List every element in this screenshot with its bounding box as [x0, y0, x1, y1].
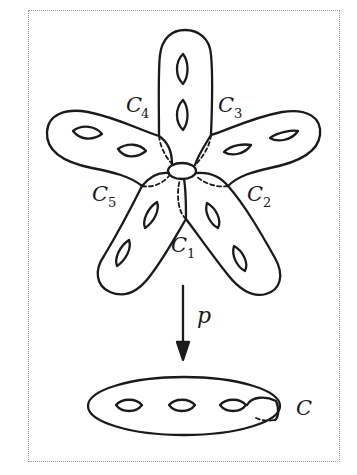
curve-c4-front: [159, 136, 172, 164]
svg-text:4: 4: [141, 106, 149, 121]
svg-text:C: C: [126, 93, 142, 117]
central-hole: [168, 163, 196, 179]
curve-label-c4: C 4: [126, 93, 149, 121]
hole-right-2: [270, 131, 298, 141]
svg-text:C: C: [171, 233, 187, 257]
curve-label-c1: C 1: [171, 233, 195, 261]
svg-text:C: C: [92, 182, 108, 206]
svg-text:C: C: [218, 93, 234, 117]
covering-diagram: C 4 C 3 C 5 C 2 C 1 p C: [0, 0, 357, 475]
svg-text:2: 2: [263, 195, 271, 210]
hole-lowerright-1: [206, 203, 219, 228]
hole-lowerright-2: [233, 246, 246, 271]
hole-left-2: [118, 145, 146, 157]
lower-hole-1: [116, 400, 142, 411]
map-arrow-head: [177, 342, 189, 360]
svg-text:C: C: [247, 182, 263, 206]
curve-c3-front: [195, 135, 211, 165]
diagram-canvas: C 4 C 3 C 5 C 2 C 1 p C: [0, 0, 357, 475]
hole-top-1: [177, 54, 188, 84]
curve-label-c: C: [296, 396, 312, 420]
hole-top-2: [177, 100, 188, 130]
hole-right-1: [224, 145, 251, 155]
curve-label-c5: C 5: [92, 182, 116, 210]
hole-left-1: [73, 127, 102, 139]
hole-lowerleft-1: [144, 202, 158, 228]
svg-text:1: 1: [187, 246, 195, 261]
lower-hole-2: [169, 400, 195, 411]
curve-c1-front: [184, 179, 186, 219]
map-label-p: p: [197, 303, 211, 328]
svg-text:3: 3: [234, 106, 242, 121]
curve-label-c3: C 3: [218, 93, 242, 121]
curve-label-c2: C 2: [247, 182, 271, 210]
lower-hole-3: [220, 400, 246, 411]
hole-lowerleft-2: [116, 240, 130, 266]
svg-text:5: 5: [108, 195, 116, 210]
